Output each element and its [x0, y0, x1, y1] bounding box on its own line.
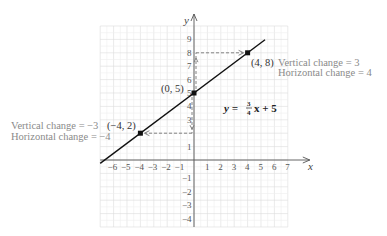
lower-horizontal-change: Horizontal change = −4: [11, 131, 111, 142]
x-tick-label: −5: [121, 162, 131, 172]
point-label-0-5: (0, 5): [161, 83, 184, 95]
y-tick-label: 4: [187, 101, 192, 111]
linear-equation-graph: −6−5−4−3−2−1123456798765431−1−2−3−4 y x …: [0, 0, 387, 236]
y-tick-label: −1: [182, 173, 192, 183]
data-point-marker: [245, 50, 250, 55]
line-y-equals-3-4x-plus-5: [100, 40, 265, 164]
y-tick-label: 7: [187, 61, 192, 71]
x-tick-label: 7: [285, 162, 290, 172]
y-tick-label: −2: [182, 187, 192, 197]
y-tick-label: −3: [182, 200, 192, 210]
y-tick-label: 6: [187, 75, 192, 85]
x-tick-label: 1: [205, 162, 210, 172]
x-tick-label: −6: [108, 162, 118, 172]
equation-lhs: y =: [222, 102, 238, 114]
equation-denominator: 4: [247, 109, 251, 117]
y-tick-label: 8: [187, 48, 192, 58]
x-tick-label: −4: [134, 162, 144, 172]
x-tick-label: −1: [175, 162, 185, 172]
plotted-line: [100, 40, 265, 164]
data-point-marker: [192, 91, 197, 96]
point-label-neg4-2: (−4, 2): [107, 120, 136, 132]
point-label-4-8: (4, 8): [251, 57, 274, 69]
equation-numerator: 3: [247, 100, 251, 108]
data-point-marker: [138, 131, 143, 136]
y-tick-label: 1: [187, 142, 192, 152]
x-tick-label: 2: [218, 162, 223, 172]
x-tick-label: −2: [161, 162, 171, 172]
y-tick-label: 3: [187, 115, 192, 125]
x-tick-label: 3: [232, 162, 237, 172]
equation-label: y = 3 4 x + 5: [222, 100, 277, 117]
x-tick-label: 6: [272, 162, 277, 172]
y-axis-label: y: [183, 14, 189, 26]
x-tick-label: 4: [245, 162, 250, 172]
equation-rhs: x + 5: [254, 102, 277, 114]
y-tick-label: −4: [182, 214, 192, 224]
x-tick-label: −3: [148, 162, 158, 172]
lower-vertical-change: Vertical change = −3: [11, 120, 98, 131]
y-tick-label: 9: [187, 34, 192, 44]
x-tick-label: 5: [259, 162, 264, 172]
upper-horizontal-change: Horizontal change = 4: [278, 67, 372, 78]
x-axis-label: x: [307, 160, 313, 172]
